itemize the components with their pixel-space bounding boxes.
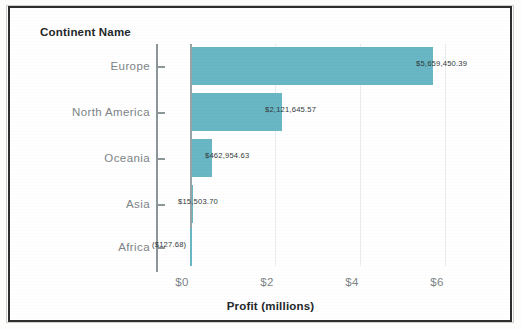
x-tick-label-6: $6	[430, 276, 444, 288]
gridline-6	[445, 44, 446, 266]
y-tick-label-north-america: North America	[20, 106, 150, 118]
y-axis-tick-labels: Europe North America Oceania Asia Africa	[18, 44, 150, 272]
value-label-asia: $15,503.70	[178, 197, 218, 206]
y-tick-label-asia: Asia	[20, 198, 150, 210]
value-label-europe: $5,659,450.39	[416, 59, 467, 68]
x-axis-title: Profit (millions)	[10, 300, 521, 312]
value-label-north-america: $2,121,645.57	[265, 105, 316, 114]
chart-frame: Continent Name Europe North America Ocea…	[8, 6, 512, 322]
y-tick-label-europe: Europe	[20, 60, 150, 72]
bar-europe[interactable]	[192, 47, 433, 85]
x-axis-tick-labels: $0 $2 $4 $6	[10, 276, 521, 294]
x-tick-label-4: $4	[345, 276, 359, 288]
y-tick-mark	[156, 66, 165, 68]
y-tick-label-africa: Africa	[20, 241, 150, 253]
y-tick-mark	[156, 112, 165, 114]
y-axis-header: Continent Name	[40, 26, 131, 38]
value-label-africa: ($127.68)	[152, 240, 186, 249]
chart-figure: Continent Name Europe North America Ocea…	[0, 0, 521, 330]
bar-africa[interactable]	[190, 228, 192, 266]
x-tick-label-2: $2	[260, 276, 274, 288]
value-label-oceania: $462,954.63	[205, 151, 249, 160]
y-tick-mark	[156, 158, 165, 160]
y-tick-mark	[156, 204, 165, 206]
x-tick-label-0: $0	[175, 276, 189, 288]
y-tick-label-oceania: Oceania	[20, 152, 150, 164]
